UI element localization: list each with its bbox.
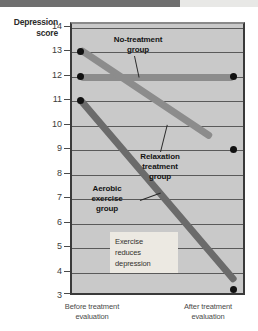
series-line-no-treatment (80, 74, 234, 81)
data-point-relaxation-before (77, 48, 84, 55)
annotation-relaxation-line-3: group (124, 172, 196, 182)
data-point-relaxation-after (230, 146, 237, 153)
annotation-relaxation: Relaxation treatment group (124, 152, 196, 182)
annotation-relaxation-line-1: Relaxation (124, 152, 196, 162)
depression-score-line-chart: Depression score 14 13 12 11 10 9 8 7 6 … (0, 0, 258, 331)
x-axis-label-after: After treatment evaluation (160, 302, 256, 321)
data-point-aerobic-before (77, 97, 84, 104)
y-tick-label-4: 4 (40, 267, 62, 276)
annotation-aerobic-line-1: Aerobic (76, 184, 138, 194)
annotation-aerobic: Aerobic exercise group (76, 184, 138, 214)
callout-exercise-reduces-depression: Exercise reduces depression (110, 232, 178, 273)
x-axis-label-before: Before treatment evaluation (44, 302, 140, 321)
y-tick-label-10: 10 (40, 120, 62, 129)
y-tick-label-13: 13 (40, 46, 62, 55)
annotation-no-treatment-line-2: group (100, 45, 176, 55)
top-band-light-segment (180, 0, 258, 7)
data-point-no-treatment-after (230, 73, 237, 80)
y-tick-label-14: 14 (40, 22, 62, 31)
x-axis-label-after-line-1: After treatment (160, 302, 256, 312)
callout-line-1: Exercise (115, 236, 173, 247)
annotation-relaxation-line-2: treatment (124, 162, 196, 172)
y-tick-label-6: 6 (40, 218, 62, 227)
gridline-6 (72, 224, 243, 225)
gridline-14 (72, 28, 243, 29)
plot-area: No-treatment group Relaxation treatment … (70, 22, 245, 295)
y-tick-label-11: 11 (40, 95, 62, 104)
y-tick-label-8: 8 (40, 169, 62, 178)
annotation-no-treatment-line-1: No-treatment (100, 35, 176, 45)
gridline-4 (72, 273, 243, 274)
gridline-9 (72, 150, 243, 151)
data-point-no-treatment-before (77, 73, 84, 80)
y-tick-label-9: 9 (40, 144, 62, 153)
x-axis-label-after-line-2: evaluation (160, 312, 256, 322)
annotation-no-treatment: No-treatment group (100, 35, 176, 55)
data-point-aerobic-after (230, 286, 237, 293)
y-tick-label-5: 5 (40, 242, 62, 251)
y-tick-label-3: 3 (40, 291, 62, 300)
x-axis-label-before-line-1: Before treatment (44, 302, 140, 312)
y-tick-label-12: 12 (40, 71, 62, 80)
x-axis-label-before-line-2: evaluation (44, 312, 140, 322)
annotation-aerobic-line-2: exercise (76, 194, 138, 204)
leader-line-relaxation (160, 125, 168, 152)
callout-line-3: depression (115, 258, 173, 269)
callout-line-2: reduces (115, 247, 173, 258)
annotation-aerobic-line-3: group (76, 204, 138, 214)
y-tick-label-7: 7 (40, 193, 62, 202)
